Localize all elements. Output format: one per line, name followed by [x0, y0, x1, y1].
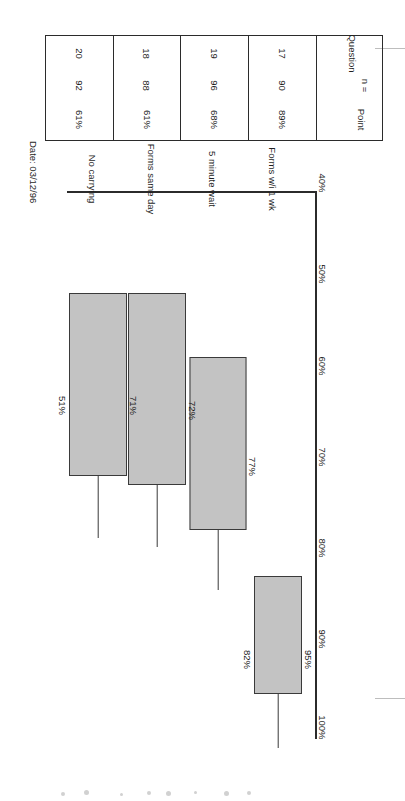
table-cell-value: 61% — [142, 110, 153, 129]
row-header-label: Question — [347, 35, 358, 73]
x-category-label: Forms same day — [146, 144, 157, 215]
y-tick-70: 70% — [323, 460, 367, 472]
y-tick-label: 60% — [318, 356, 329, 375]
y-tick-90: 90% — [323, 642, 367, 654]
table-cell-question: 19 — [182, 38, 249, 70]
table-cell-value: 17 — [277, 49, 288, 60]
table-column-forms-same-day: 61% 88 18 — [113, 36, 181, 140]
table-column-5-minute-wait: 68% 96 19 — [181, 36, 249, 140]
whisker-line — [217, 530, 218, 590]
table-column-forms-wi-1-wk: 89% 90 17 — [248, 36, 316, 140]
table-cell-value: 18 — [142, 49, 153, 60]
table-cell-point: 61% — [46, 104, 113, 136]
row-header-question: Question — [307, 38, 382, 70]
table-cell-n: 88 — [114, 70, 181, 102]
bar-lower-value-label: 51% — [57, 396, 68, 415]
table-grid: Point n = Question 89% 90 17 68% 96 19 6… — [45, 35, 383, 141]
y-tick-label: 90% — [318, 629, 329, 648]
y-tick-label: 70% — [318, 447, 329, 466]
y-tick-50: 50% — [323, 277, 367, 289]
bar-box: 95% 82% — [254, 576, 302, 694]
table-cell-question: 18 — [114, 38, 181, 70]
y-tick-label: 100% — [318, 715, 329, 739]
table-cell-value: 96 — [209, 81, 220, 92]
row-header-label: Point — [356, 109, 367, 131]
table-cell-question: 20 — [46, 38, 113, 70]
y-tick-40: 40% — [323, 186, 367, 198]
x-category-label: No carrying — [87, 155, 98, 204]
bar-upper-value-label: 77% — [247, 457, 258, 476]
x-category-label: 5 minute wait — [207, 151, 218, 207]
table-cell-value: 90 — [277, 81, 288, 92]
y-tick-60: 60% — [323, 369, 367, 381]
bar-box: 71% 51% — [69, 293, 127, 476]
table-cell-value: 61% — [74, 110, 85, 129]
table-cell-n: 92 — [46, 70, 113, 102]
table-cell-point: 68% — [182, 104, 249, 136]
row-header-point: Point — [307, 104, 382, 136]
y-tick-label: 50% — [318, 264, 329, 283]
y-tick-80: 80% — [323, 551, 367, 563]
data-table: Point n = Question 89% 90 17 68% 96 19 6… — [45, 35, 383, 141]
bar-upper-value-label: 71% — [128, 396, 139, 415]
table-cell-value: 20 — [74, 49, 85, 60]
bar-group-forms-same-day: 72% 51% — [124, 193, 190, 739]
bar-box: 77% 58% — [190, 357, 247, 530]
scanned-page: 100% 90% 80% 70% 60% 50% 40% — [0, 0, 405, 801]
bar-group-5-minute-wait: 77% 58% — [185, 193, 251, 739]
whisker-line — [156, 485, 157, 547]
table-column-no-carrying: 61% 92 20 — [46, 36, 113, 140]
whisker-line — [277, 694, 278, 748]
bar-group-no-carrying: 71% 51% — [65, 193, 131, 739]
table-cell-value: 89% — [277, 110, 288, 129]
y-tick-100: 100% — [323, 733, 367, 745]
bar-upper-value-label: 72% — [187, 401, 198, 420]
bar-box: 72% 51% — [128, 293, 186, 485]
row-header-n: n = — [307, 70, 382, 102]
y-tick-label: 80% — [318, 538, 329, 557]
scan-noise-band — [55, 788, 255, 798]
bar-upper-value-label: 95% — [303, 650, 314, 669]
table-row-header-column: Point n = Question — [316, 36, 382, 140]
y-tick-label: 40% — [318, 173, 329, 192]
date-footer: Date: 03/12/96 — [28, 141, 39, 203]
whisker-line — [97, 476, 98, 538]
row-header-label: n = — [360, 79, 371, 92]
table-cell-value: 68% — [209, 110, 220, 129]
table-cell-point: 89% — [249, 104, 316, 136]
table-cell-question: 17 — [249, 38, 316, 70]
plot-area: 100% 90% 80% 70% 60% 50% 40% — [67, 191, 317, 739]
table-cell-value: 19 — [209, 49, 220, 60]
table-cell-value: 92 — [74, 81, 85, 92]
x-category-label: Forms w/i 1 wk — [267, 147, 278, 210]
table-cell-n: 90 — [249, 70, 316, 102]
table-cell-point: 61% — [114, 104, 181, 136]
table-cell-value: 88 — [142, 81, 153, 92]
rotated-page-wrapper: 100% 90% 80% 70% 60% 50% 40% — [0, 0, 405, 801]
table-cell-n: 96 — [182, 70, 249, 102]
chart: 100% 90% 80% 70% 60% 50% 40% — [45, 149, 383, 749]
